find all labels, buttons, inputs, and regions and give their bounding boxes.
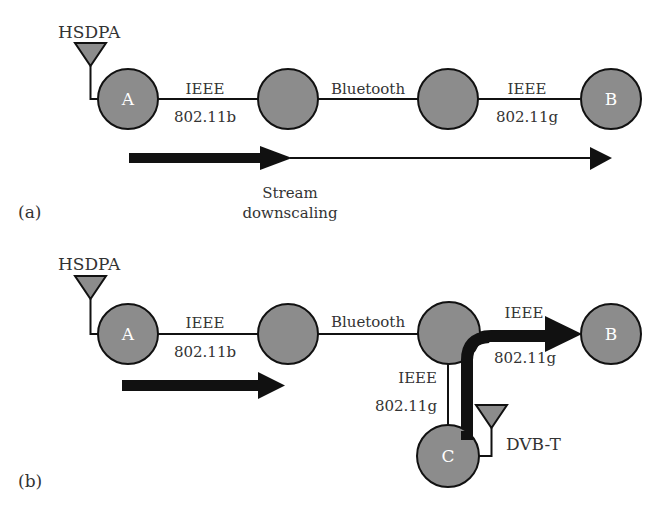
dvbt-antenna-feed xyxy=(479,428,492,456)
link-a-1-top: IEEE xyxy=(186,80,225,98)
node-c-label: C xyxy=(441,446,454,466)
link-b-3-bottom: 802.11g xyxy=(494,349,556,367)
link-b-4-top: IEEE xyxy=(398,369,437,387)
link-b-2-top: Bluetooth xyxy=(331,313,405,331)
link-a-3-bottom: 802.11g xyxy=(496,108,558,126)
node-a-label: A xyxy=(121,324,135,344)
link-b-1-top: IEEE xyxy=(186,314,225,332)
dvbt-label: DVB-T xyxy=(506,434,562,454)
node-relay-1 xyxy=(258,304,318,364)
thick-arrowhead xyxy=(260,146,292,170)
link-b-1-bottom: 802.11b xyxy=(174,343,236,361)
thick-arrowhead-b xyxy=(545,316,582,352)
hsdpa-label: HSDPA xyxy=(58,22,121,42)
panel-a-label: (a) xyxy=(18,202,41,222)
antenna-feed xyxy=(91,299,99,334)
network-diagram: HSDPA A B IEEE 802.11b Bluetooth IEEE 80… xyxy=(0,0,664,513)
thin-arrowhead xyxy=(590,147,612,170)
panel-b-label: (b) xyxy=(18,471,42,491)
hsdpa-label-b: HSDPA xyxy=(58,254,121,274)
annotation-line1: Stream xyxy=(262,184,318,202)
node-a-label: A xyxy=(121,89,135,109)
panel-a: HSDPA A B IEEE 802.11b Bluetooth IEEE 80… xyxy=(18,22,641,222)
node-b-label: B xyxy=(605,324,618,344)
thick-stream-bar xyxy=(129,153,264,163)
link-b-4-bottom: 802.11g xyxy=(375,397,437,415)
link-b-3-top: IEEE xyxy=(505,304,544,322)
node-b-label: B xyxy=(605,89,618,109)
antenna-feed xyxy=(91,66,99,99)
stream-bar-b xyxy=(122,380,262,391)
node-relay-1 xyxy=(258,69,318,129)
dvbt-antenna-icon xyxy=(476,405,507,428)
antenna-icon xyxy=(75,276,106,299)
annotation-line2: downscaling xyxy=(242,204,337,222)
antenna-icon xyxy=(75,43,106,66)
link-a-3-top: IEEE xyxy=(508,80,547,98)
stream-arrowhead-b xyxy=(258,372,285,399)
link-a-1-bottom: 802.11b xyxy=(174,108,236,126)
panel-b: HSDPA DVB-T A B C IEEE 802.11b Bluetooth… xyxy=(18,254,641,491)
node-relay-2 xyxy=(418,69,478,129)
link-a-2-top: Bluetooth xyxy=(331,80,405,98)
